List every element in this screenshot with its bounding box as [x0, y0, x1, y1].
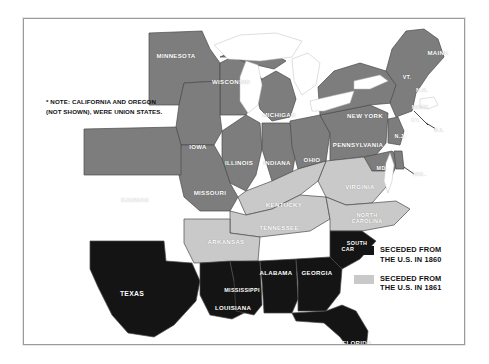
legend-label-1861: SECEDED FROM THE U.S. IN 1861 — [380, 274, 442, 294]
legend-label-1860: SECEDED FROM THE U.S. IN 1860 — [380, 245, 442, 265]
lake-huron — [292, 53, 320, 95]
legend-label-1861-line1: SECEDED FROM — [380, 274, 442, 284]
legend-item-1860: SECEDED FROM THE U.S. IN 1860 — [354, 245, 462, 265]
map-legend: SECEDED FROM THE U.S. IN 1860 SECEDED FR… — [354, 245, 462, 302]
lake-superior — [214, 33, 302, 61]
leader-line-del — [404, 167, 414, 174]
leader-line-ri — [426, 123, 436, 129]
legend-label-1860-line1: SECEDED FROM — [380, 245, 442, 255]
state-shape-new-jersey — [388, 117, 404, 145]
leader-line-ri2 — [414, 111, 428, 125]
legend-swatch-1861 — [354, 275, 374, 284]
state-shape-kansas — [84, 127, 181, 175]
cape-cod — [420, 97, 438, 109]
state-shape-georgia — [296, 257, 342, 311]
state-shape-alabama — [260, 259, 298, 313]
legend-label-1861-line2: THE U.S. IN 1861 — [380, 283, 442, 293]
map-note: * NOTE: CALIFORNIA AND OREGON (NOT SHOWN… — [46, 97, 170, 117]
state-shape-delaware — [394, 151, 404, 169]
legend-label-1860-line2: THE U.S. IN 1860 — [380, 255, 442, 265]
legend-item-1861: SECEDED FROM THE U.S. IN 1861 — [354, 274, 462, 294]
state-shape-pennsylvania — [320, 105, 388, 161]
state-shape-texas — [90, 241, 200, 337]
legend-swatch-1860 — [354, 246, 374, 255]
map-frame: * NOTE: CALIFORNIA AND OREGON (NOT SHOWN… — [23, 18, 465, 345]
state-shape-ohio — [290, 115, 330, 169]
state-shape-iowa — [176, 81, 222, 145]
